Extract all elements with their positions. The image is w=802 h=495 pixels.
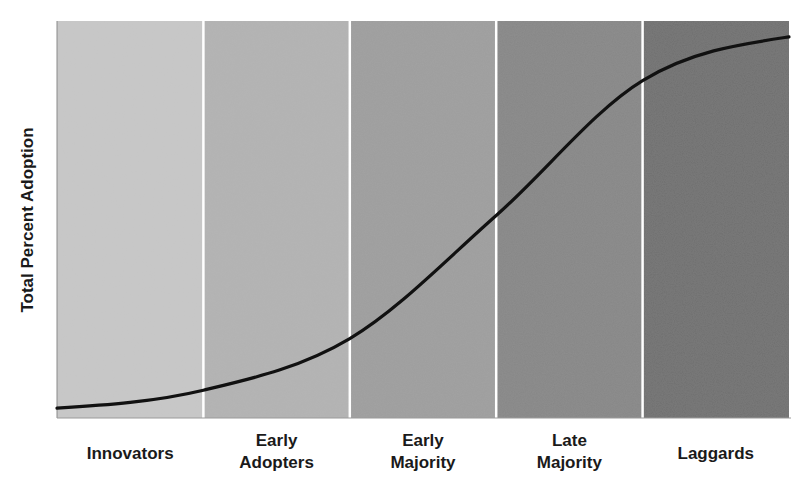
category-label-late-majority: LateMajority — [496, 430, 642, 474]
band-late-majority — [496, 21, 642, 418]
category-label-line: Late — [496, 430, 642, 452]
category-label-laggards: Laggards — [643, 443, 789, 465]
category-label-early-adopters: EarlyAdopters — [203, 430, 349, 474]
category-label-line: Adopters — [203, 452, 349, 474]
adoption-chart — [0, 0, 802, 495]
category-label-innovators: Innovators — [57, 443, 203, 465]
y-axis-label: Total Percent Adoption — [18, 127, 38, 312]
category-label-line: Majority — [350, 452, 496, 474]
band-laggards — [643, 21, 789, 418]
category-label-line: Early — [350, 430, 496, 452]
category-label-early-majority: EarlyMajority — [350, 430, 496, 474]
category-label-line: Early — [203, 430, 349, 452]
band-early-majority — [350, 21, 496, 418]
band-early-adopters — [203, 21, 349, 418]
band-innovators — [57, 21, 203, 418]
category-label-line: Innovators — [57, 443, 203, 465]
category-bands — [57, 21, 789, 418]
category-label-line: Laggards — [643, 443, 789, 465]
category-label-line: Majority — [496, 452, 642, 474]
